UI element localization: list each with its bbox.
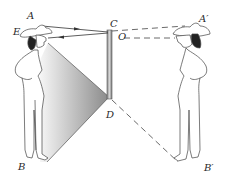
light-cone [40, 43, 109, 162]
label-d: D [106, 110, 114, 120]
label-o: O [118, 32, 126, 42]
person-image [173, 23, 210, 161]
mirror [107, 30, 112, 99]
virtual-rays [112, 26, 185, 162]
label-e: E [13, 27, 20, 37]
label-a-prime: A′ [199, 14, 209, 24]
label-c: C [110, 19, 118, 29]
label-b: B [18, 162, 25, 172]
label-a: A [27, 11, 34, 21]
label-b-prime: B′ [204, 163, 214, 173]
